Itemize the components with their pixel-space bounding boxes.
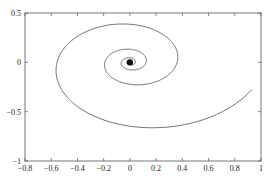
- y-axis-ticks: −1−0.500.5: [6, 9, 261, 166]
- y-tick-label: 0.5: [11, 9, 21, 18]
- spiral-center: [127, 59, 133, 65]
- y-tick-label: −1: [12, 157, 21, 166]
- y-tick-label: 0: [17, 58, 21, 67]
- y-tick-label: −0.5: [6, 108, 21, 117]
- x-tick-label: 0.6: [204, 164, 214, 173]
- x-tick-label: −0.6: [44, 164, 59, 173]
- x-tick-label: 0.2: [151, 164, 161, 173]
- x-tick-label: −0.4: [70, 164, 85, 173]
- x-axis-ticks: −0.8−0.6−0.4−0.200.20.40.60.81: [18, 13, 263, 173]
- x-tick-label: 0.4: [177, 164, 187, 173]
- spiral-line: [56, 24, 252, 128]
- x-tick-label: 0: [128, 164, 132, 173]
- spiral-curve: [56, 24, 252, 128]
- x-tick-label: 0.8: [230, 164, 240, 173]
- x-tick-label: 1: [259, 164, 263, 173]
- x-tick-label: −0.2: [96, 164, 111, 173]
- spiral-phase-plot: −0.8−0.6−0.4−0.200.20.40.60.81 −1−0.500.…: [0, 0, 272, 183]
